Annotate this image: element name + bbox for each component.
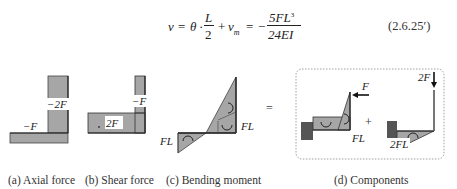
caption-shear: (b) Shear force bbox=[85, 174, 154, 186]
force-diagrams: −2F −F −F 2F FL FL = bbox=[0, 0, 457, 189]
axial-force-diagram: −2F −F bbox=[10, 76, 70, 143]
axial-vertical-label: −2F bbox=[47, 98, 67, 110]
plus-sign: + bbox=[365, 115, 372, 129]
components-diagram: F FL + 2F 2FL bbox=[296, 69, 444, 159]
equals-sign: = bbox=[266, 101, 273, 115]
left-arrowhead-icon bbox=[352, 92, 358, 98]
bm-end-label: FL bbox=[159, 135, 173, 147]
shear-vertical-label: −F bbox=[132, 95, 146, 107]
left-support bbox=[301, 122, 313, 140]
caption-axial: (a) Axial force bbox=[8, 174, 75, 186]
bm-corner-label: FL bbox=[240, 120, 254, 132]
bm-lower-triangle bbox=[178, 133, 206, 153]
caption-bending: (c) Bending moment bbox=[166, 174, 261, 186]
right-force-label: 2F bbox=[418, 71, 431, 83]
right-support bbox=[387, 121, 397, 138]
left-force-label: F bbox=[361, 80, 369, 92]
shear-force-diagram: −F 2F bbox=[88, 76, 147, 133]
caption-components: (d) Components bbox=[334, 174, 408, 186]
axial-horizontal-bar bbox=[10, 133, 68, 143]
shear-horizontal-label: 2F bbox=[106, 117, 119, 129]
right-moment-label: 2FL bbox=[390, 138, 408, 150]
axial-horizontal-label: −F bbox=[23, 120, 37, 132]
right-arrowhead-icon bbox=[431, 82, 437, 88]
left-moment-label: FL bbox=[351, 132, 365, 144]
shear-dot bbox=[98, 126, 100, 128]
bending-moment-diagram: FL FL bbox=[159, 77, 254, 153]
